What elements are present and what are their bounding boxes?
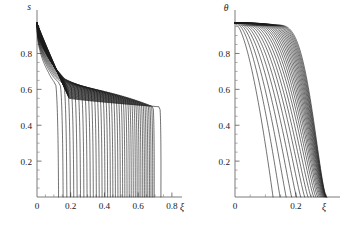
saturation-curve [37, 23, 133, 197]
saturation-curve [37, 23, 118, 197]
saturation-curve [37, 23, 146, 197]
y-tick-label: 0.2 [219, 157, 231, 167]
saturation-curve [37, 23, 151, 197]
temperature-curve [235, 23, 318, 197]
x-axis-label: ξ [180, 201, 185, 213]
y-tick-label: 0.8 [21, 49, 33, 59]
temperature-plot: 00.20.20.40.60.8ξθ [190, 0, 347, 233]
x-tick-label: 0.2 [65, 201, 77, 211]
x-tick-label: 0 [35, 201, 40, 211]
plot-panel-right: 00.20.20.40.60.8ξθ [190, 0, 347, 233]
y-tick-label: 0.8 [219, 49, 231, 59]
y-tick-label: 0.6 [219, 85, 231, 95]
figure-container: 00.20.40.60.80.20.40.60.8ξs 00.20.20.40.… [0, 0, 347, 233]
saturation-plot: 00.20.40.60.80.20.40.60.8ξs [0, 0, 190, 233]
y-tick-label: 0.2 [21, 157, 33, 167]
x-tick-label: 0.2 [290, 201, 302, 211]
saturation-curve [37, 23, 123, 197]
y-tick-label: 0.4 [21, 121, 33, 131]
saturation-curve [37, 23, 127, 197]
x-axis-label: ξ [322, 201, 327, 213]
temperature-curve [235, 23, 292, 197]
x-tick-label: 0 [233, 201, 238, 211]
x-tick-label: 0.6 [132, 201, 144, 211]
temperature-curve [235, 23, 327, 197]
temperature-curve [235, 23, 308, 197]
x-tick-label: 0.8 [166, 201, 178, 211]
y-axis-label: s [27, 1, 31, 12]
y-axis-label: θ [224, 2, 229, 13]
saturation-curve [37, 23, 113, 197]
saturation-curve [37, 23, 154, 197]
y-tick-label: 0.6 [21, 85, 33, 95]
y-tick-label: 0.4 [219, 121, 231, 131]
x-tick-label: 0.4 [99, 201, 111, 211]
plot-panel-left: 00.20.40.60.80.20.40.60.8ξs [0, 0, 190, 233]
